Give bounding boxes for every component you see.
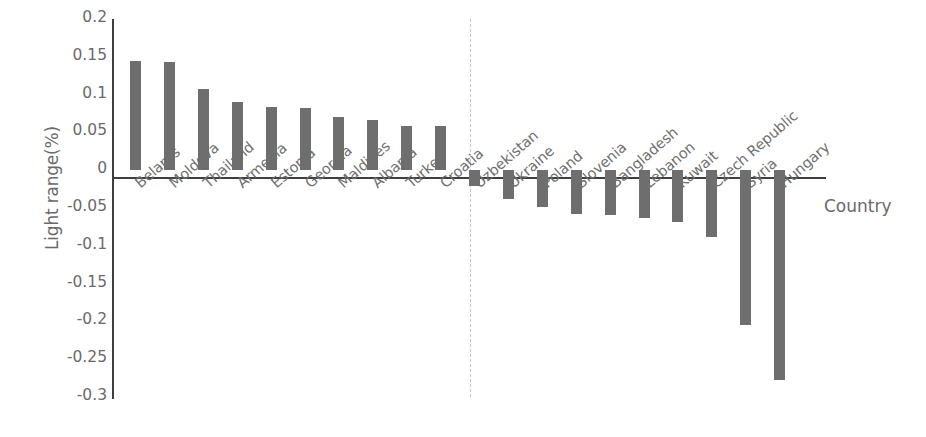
- category-labels: BelarusMoldovaThailandArmeniaEstoniaGeor…: [0, 0, 926, 437]
- bar-chart: Light range(%) Country 0.20.150.10.050-0…: [0, 0, 926, 437]
- category-label: Hungary: [776, 139, 833, 191]
